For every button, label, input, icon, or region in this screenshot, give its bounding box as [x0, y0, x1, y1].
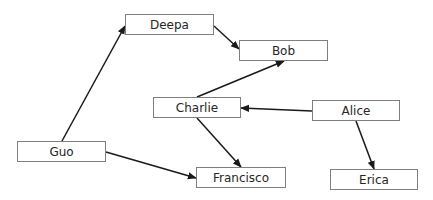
- node-erica: Erica: [330, 169, 418, 190]
- node-label: Charlie: [176, 101, 218, 115]
- node-label: Deepa: [150, 18, 189, 32]
- node-label: Francisco: [213, 171, 269, 185]
- edge-alice-to-erica: [356, 121, 374, 169]
- edge-guo-to-francisco: [106, 152, 196, 178]
- diagram-canvas: DeepaBobCharlieAliceGuoFranciscoErica: [0, 0, 433, 200]
- edge-guo-to-deepa: [62, 26, 125, 141]
- edge-charlie-to-francisco: [197, 118, 241, 167]
- node-label: Erica: [359, 173, 389, 187]
- node-charlie: Charlie: [153, 97, 241, 118]
- node-guo: Guo: [17, 141, 106, 162]
- node-francisco: Francisco: [196, 167, 286, 188]
- node-alice: Alice: [312, 100, 400, 121]
- node-label: Bob: [272, 44, 295, 58]
- node-deepa: Deepa: [125, 14, 214, 35]
- node-label: Guo: [49, 145, 73, 159]
- node-label: Alice: [342, 104, 371, 118]
- node-bob: Bob: [239, 40, 328, 61]
- edge-alice-to-charlie: [241, 108, 312, 111]
- edge-charlie-to-bob: [197, 61, 284, 97]
- edge-deepa-to-bob: [214, 26, 239, 49]
